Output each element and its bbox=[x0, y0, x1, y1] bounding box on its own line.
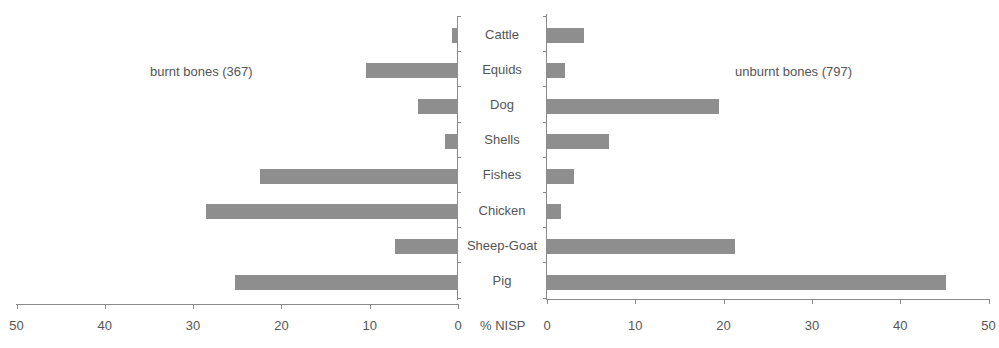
category-tick bbox=[457, 86, 461, 87]
bar-burnt-dog bbox=[418, 99, 458, 114]
value-tick bbox=[105, 304, 106, 309]
bar-unburnt-chicken bbox=[547, 204, 561, 219]
category-label: Fishes bbox=[457, 167, 547, 182]
category-tick bbox=[543, 192, 547, 193]
value-tick bbox=[900, 299, 901, 304]
category-tick bbox=[543, 262, 547, 263]
category-tick bbox=[457, 298, 461, 299]
tick-label-left: 10 bbox=[350, 318, 390, 333]
category-label: Shells bbox=[457, 132, 547, 147]
bar-unburnt-pig bbox=[547, 275, 946, 290]
right-value-axis bbox=[546, 299, 989, 300]
tick-label-right: 30 bbox=[792, 318, 832, 333]
category-tick bbox=[457, 192, 461, 193]
left-value-axis bbox=[16, 304, 459, 305]
x-axis-title: % NISP bbox=[480, 318, 526, 333]
tick-label-right: 40 bbox=[880, 318, 920, 333]
category-tick bbox=[457, 16, 461, 17]
left-series-label: burnt bones (367) bbox=[150, 64, 253, 79]
category-label: Equids bbox=[457, 62, 547, 77]
bar-burnt-fishes bbox=[260, 169, 458, 184]
tick-label-right: 10 bbox=[615, 318, 655, 333]
category-label: Cattle bbox=[457, 27, 547, 42]
bar-burnt-sheep-goat bbox=[395, 239, 458, 254]
category-tick bbox=[457, 227, 461, 228]
value-tick bbox=[458, 304, 459, 309]
category-tick bbox=[543, 86, 547, 87]
bar-unburnt-sheep-goat bbox=[547, 239, 735, 254]
tick-label-left: 50 bbox=[0, 318, 37, 333]
category-tick bbox=[457, 262, 461, 263]
category-tick bbox=[543, 122, 547, 123]
tick-label-right: 20 bbox=[704, 318, 744, 333]
bar-burnt-equids bbox=[366, 63, 458, 78]
value-tick bbox=[724, 299, 725, 304]
category-tick bbox=[543, 157, 547, 158]
category-tick bbox=[457, 51, 461, 52]
bar-unburnt-cattle bbox=[547, 28, 584, 43]
back-to-back-bar-chart: burnt bones (367) unburnt bones (797) Ca… bbox=[0, 0, 999, 348]
value-tick bbox=[193, 304, 194, 309]
value-tick bbox=[989, 299, 990, 304]
bar-unburnt-dog bbox=[547, 99, 719, 114]
category-label: Dog bbox=[457, 97, 547, 112]
tick-label-left: 40 bbox=[85, 318, 125, 333]
value-tick bbox=[17, 304, 18, 309]
value-tick bbox=[547, 299, 548, 304]
bar-unburnt-shells bbox=[547, 134, 609, 149]
bar-burnt-chicken bbox=[206, 204, 458, 219]
category-tick bbox=[457, 157, 461, 158]
tick-label-right: 50 bbox=[969, 318, 999, 333]
bar-burnt-shells bbox=[445, 134, 458, 149]
tick-label-left: 20 bbox=[261, 318, 301, 333]
right-series-label: unburnt bones (797) bbox=[735, 64, 852, 79]
value-tick bbox=[370, 304, 371, 309]
bar-unburnt-fishes bbox=[547, 169, 574, 184]
category-label: Chicken bbox=[457, 203, 547, 218]
value-tick bbox=[635, 299, 636, 304]
value-tick bbox=[281, 304, 282, 309]
value-tick bbox=[812, 299, 813, 304]
left-category-axis bbox=[457, 16, 458, 300]
category-tick bbox=[543, 227, 547, 228]
tick-label-left: 30 bbox=[173, 318, 213, 333]
bar-burnt-pig bbox=[235, 275, 458, 290]
category-tick bbox=[543, 51, 547, 52]
bar-unburnt-equids bbox=[547, 63, 565, 78]
category-label: Pig bbox=[457, 273, 547, 288]
category-tick bbox=[543, 16, 547, 17]
tick-label-left: 0 bbox=[438, 318, 478, 333]
category-label: Sheep-Goat bbox=[457, 238, 547, 253]
category-tick bbox=[457, 122, 461, 123]
tick-label-right: 0 bbox=[527, 318, 567, 333]
